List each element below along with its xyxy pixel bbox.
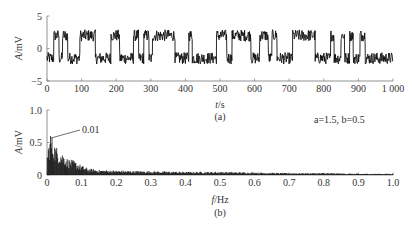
x-tick-label: 1.0 xyxy=(387,177,400,188)
panel-a-label: (a) xyxy=(214,111,225,123)
x-tick-label: 100 xyxy=(74,83,89,94)
x-tick-label: 900 xyxy=(351,83,366,94)
x-tick-label: 600 xyxy=(247,83,262,94)
panel-b-spectrum: 00.10.20.30.40.50.60.70.80.91.000.51.0 0… xyxy=(13,105,399,220)
x-tick-label: 300 xyxy=(143,83,158,94)
x-tick-label: 700 xyxy=(282,83,297,94)
panel-a-axes: 01002003004005006007008009001 000−505 xyxy=(31,11,404,95)
x-tick-label: 0.5 xyxy=(214,177,227,188)
x-tick-label: 0.6 xyxy=(248,177,261,188)
x-tick-label: 200 xyxy=(109,83,124,94)
panel-b-x-axis-title: f/Hz xyxy=(211,194,229,205)
panel-b-spectrum-line xyxy=(47,136,393,175)
y-tick-label: 0.5 xyxy=(30,137,43,148)
panel-b-label: (b) xyxy=(214,207,226,219)
x-tick-label: 400 xyxy=(178,83,193,94)
x-tick-label: 0.3 xyxy=(145,177,158,188)
y-tick-label: 5 xyxy=(37,11,42,22)
x-tick-label: 1 000 xyxy=(382,83,405,94)
x-tick-label: 0.7 xyxy=(283,177,296,188)
panel-b-y-axis-title: A/mV xyxy=(13,129,24,155)
x-tick-label: 0 xyxy=(45,177,50,188)
panel-a-time-series: 01002003004005006007008009001 000−505 t/… xyxy=(13,11,404,124)
y-tick-label: 1.0 xyxy=(30,105,43,116)
x-tick-label: 800 xyxy=(316,83,331,94)
x-tick-label: 0.9 xyxy=(352,177,365,188)
chart-figure: 01002003004005006007008009001 000−505 t/… xyxy=(0,0,412,225)
x-tick-label: 0.4 xyxy=(179,177,192,188)
annotation-peak-label: 0.01 xyxy=(82,124,100,135)
x-tick-label: 0 xyxy=(45,83,50,94)
x-tick-label: 0.1 xyxy=(75,177,88,188)
panel-a-y-axis-title: A/mV xyxy=(13,35,24,61)
y-tick-label: 0 xyxy=(37,43,42,54)
y-tick-label: −5 xyxy=(31,76,42,87)
panel-a-x-axis-title: t/s xyxy=(215,99,225,110)
panel-a-signal-line xyxy=(47,30,393,64)
annotation-leader-line xyxy=(51,130,80,138)
parameter-label: a=1.5, b=0.5 xyxy=(314,114,365,125)
y-tick-label: 0 xyxy=(37,170,42,181)
x-tick-label: 0.2 xyxy=(110,177,123,188)
x-tick-label: 0.8 xyxy=(318,177,331,188)
x-tick-label: 500 xyxy=(213,83,228,94)
